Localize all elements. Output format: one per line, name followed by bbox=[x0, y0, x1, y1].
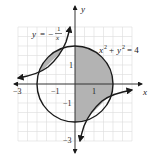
x-tick-neg3: −3 bbox=[13, 87, 22, 96]
svg-text:x: x bbox=[98, 45, 103, 55]
svg-text:=: = bbox=[40, 29, 45, 39]
x-tick-1: 1 bbox=[92, 87, 96, 96]
y-tick-neg3: −3 bbox=[63, 136, 72, 145]
svg-text:x: x bbox=[55, 34, 60, 42]
y-tick-1: 1 bbox=[69, 61, 73, 70]
y-tick-neg1: −1 bbox=[63, 99, 72, 108]
region-graph: y x −3 −1 1 1 −1 −3 y = − 1 x x 2 + y 2 … bbox=[0, 0, 156, 159]
svg-text:2: 2 bbox=[122, 44, 125, 50]
y-axis-label: y bbox=[80, 4, 85, 14]
svg-text:1: 1 bbox=[57, 25, 61, 33]
x-tick-neg1: −1 bbox=[51, 87, 60, 96]
svg-text:y: y bbox=[116, 45, 121, 55]
svg-text:= 4: = 4 bbox=[127, 45, 139, 55]
circle-equation: x 2 + y 2 = 4 bbox=[98, 44, 139, 55]
svg-text:−: − bbox=[48, 29, 53, 39]
svg-text:+: + bbox=[109, 45, 114, 55]
x-axis-label: x bbox=[142, 87, 147, 97]
svg-text:y: y bbox=[31, 29, 36, 39]
svg-text:2: 2 bbox=[104, 44, 107, 50]
